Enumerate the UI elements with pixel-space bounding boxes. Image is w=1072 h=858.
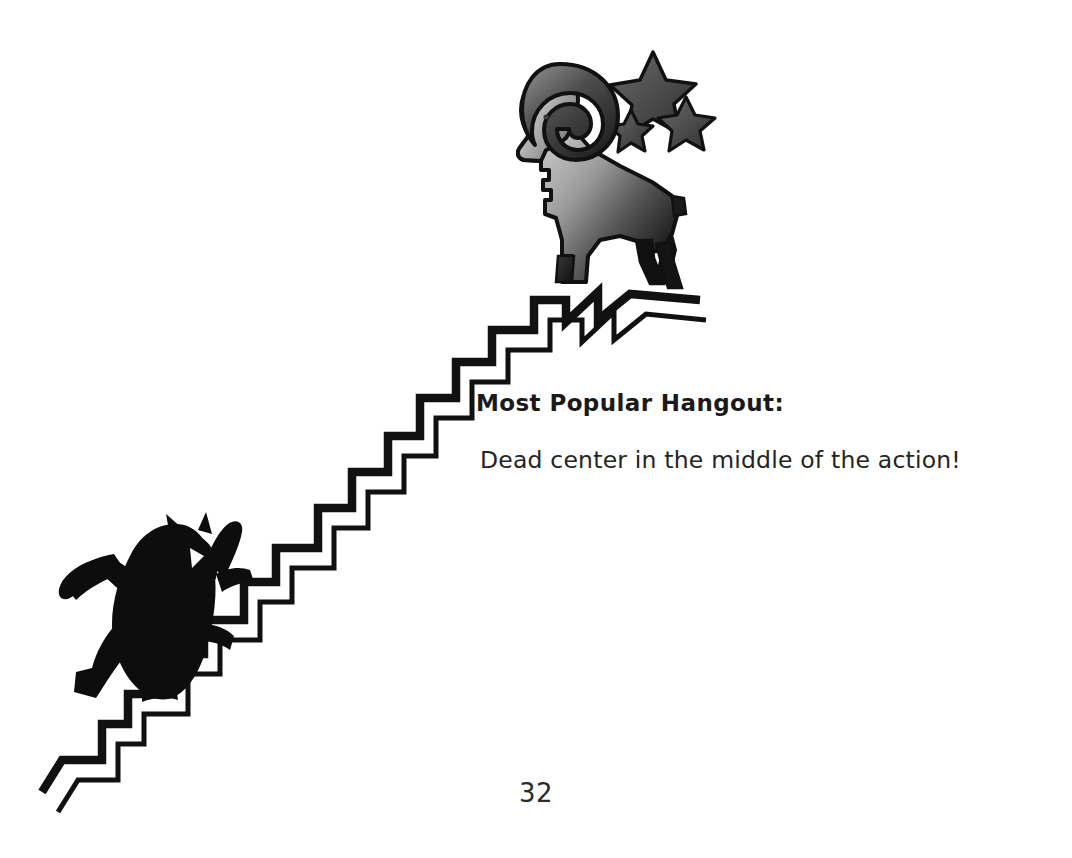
cat-icon	[59, 512, 254, 702]
caption-heading: Most Popular Hangout:	[476, 392, 1036, 415]
book-page: Most Popular Hangout: Dead center in the…	[0, 0, 1072, 858]
stars-icon	[609, 52, 715, 152]
caption-body: Dead center in the middle of the action!	[476, 415, 1036, 473]
caption-block: Most Popular Hangout: Dead center in the…	[476, 392, 1036, 473]
page-number: 32	[0, 778, 1072, 808]
